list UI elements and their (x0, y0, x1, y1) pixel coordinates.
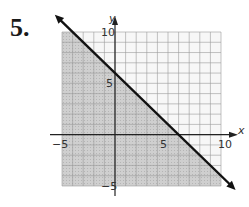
x-tick-label: 5 (160, 138, 167, 151)
y-tick-label: −5 (101, 180, 117, 193)
inequality-graph: −5510105−5 x y (0, 0, 249, 207)
y-tick-label: 5 (106, 77, 113, 90)
x-axis-label: x (237, 124, 245, 137)
y-tick-label: 10 (101, 26, 115, 39)
y-axis-label: y (108, 12, 116, 25)
x-tick-label: −5 (52, 138, 68, 151)
x-tick-label: 10 (218, 138, 232, 151)
